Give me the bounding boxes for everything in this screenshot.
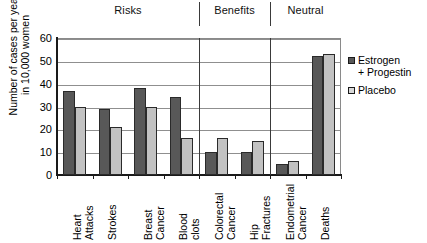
- y-tick-label-60: 60: [32, 32, 52, 44]
- x-tick-mark: [199, 175, 200, 179]
- bar: [217, 138, 229, 175]
- y-tick-label-50: 50: [32, 55, 52, 67]
- bar: [134, 88, 146, 175]
- bar: [288, 161, 300, 175]
- x-tick-mark: [235, 175, 236, 179]
- y-tick-label-30: 30: [32, 101, 52, 113]
- x-category-label-text: Breast Cancer: [143, 180, 166, 240]
- section-divider: [270, 38, 271, 175]
- chart-legend: Estrogen + ProgestinPlacebo: [348, 54, 426, 102]
- legend-item[interactable]: Estrogen + Progestin: [348, 54, 426, 78]
- section-title-risks: Risks: [57, 4, 199, 16]
- x-tick-mark: [128, 175, 129, 179]
- x-tick-mark: [57, 175, 58, 179]
- x-tick-mark: [164, 175, 165, 179]
- bar-group: [128, 38, 164, 175]
- bar: [205, 152, 217, 175]
- x-category-label-text: Strokes: [107, 180, 119, 240]
- x-category-label-text: Heart Attacks: [72, 180, 95, 240]
- bar: [110, 127, 122, 175]
- x-axis-category-labels: Heart AttacksStrokesBreast CancerBlood c…: [57, 180, 341, 242]
- x-category-label: Deaths: [320, 180, 380, 240]
- x-tick-mark: [341, 175, 342, 179]
- bar: [181, 138, 193, 175]
- x-category-label-text: Deaths: [320, 180, 332, 240]
- bar-group: [235, 38, 271, 175]
- bar-group: [93, 38, 129, 175]
- x-tick-mark: [93, 175, 94, 179]
- bar-group: [306, 38, 342, 175]
- legend-item-label: Estrogen + Progestin: [358, 54, 411, 78]
- y-tick-label-10: 10: [32, 146, 52, 158]
- y-tick-label-40: 40: [32, 78, 52, 90]
- legend-swatch-icon: [348, 87, 355, 94]
- x-tick-mark: [270, 175, 271, 179]
- y-tick-label-20: 20: [32, 123, 52, 135]
- bar-group: [57, 38, 93, 175]
- x-category-label-text: Endometrial Cancer: [285, 180, 308, 240]
- bar-group: [199, 38, 235, 175]
- section-title-neutral: Neutral: [270, 4, 341, 16]
- bar: [323, 54, 335, 175]
- y-axis-tick-labels: 0102030405060: [28, 38, 52, 175]
- x-category-label-text: Blood clots: [178, 180, 201, 240]
- bar: [276, 164, 288, 175]
- x-category-label-text: Colorectal Cancer: [214, 180, 237, 240]
- bar: [63, 91, 75, 175]
- legend-item-label: Placebo: [358, 84, 396, 96]
- section-divider: [199, 38, 200, 175]
- section-header-band: RisksBenefitsNeutral: [0, 0, 427, 26]
- bar-group: [164, 38, 200, 175]
- section-title-benefits: Benefits: [199, 4, 270, 16]
- bar: [241, 152, 253, 175]
- bar-group: [270, 38, 306, 175]
- legend-item[interactable]: Placebo: [348, 84, 426, 96]
- section-divider: [270, 2, 271, 26]
- bar: [312, 56, 324, 175]
- bar: [146, 107, 158, 176]
- x-category-label-text: Hip Fractures: [249, 180, 272, 240]
- bar: [252, 141, 264, 175]
- legend-swatch-icon: [348, 57, 355, 64]
- x-tick-mark: [306, 175, 307, 179]
- bar: [170, 97, 182, 175]
- y-axis-title-line1: Number of cases per year: [7, 0, 19, 115]
- bar: [75, 107, 87, 176]
- section-divider: [199, 2, 200, 26]
- bar: [99, 109, 111, 175]
- y-tick-label-0: 0: [32, 169, 52, 181]
